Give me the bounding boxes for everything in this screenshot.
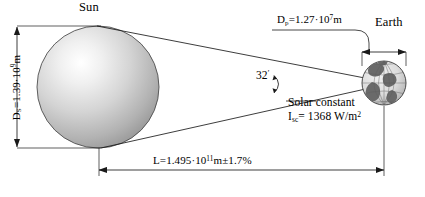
- angle-unit: ′: [268, 69, 270, 78]
- distance-symbol: L: [153, 154, 160, 166]
- earth-diameter-leader-line: [272, 30, 369, 52]
- distance-tolerance: ±1.7%: [222, 154, 251, 166]
- sun-diameter-label: DS=1.39·109m: [11, 37, 24, 137]
- distance-label: L=1.495·1011m±1.7%: [153, 155, 252, 167]
- sun-diameter-subscript: S: [15, 108, 23, 112]
- distance-value: =1.495: [160, 154, 192, 166]
- sun-label: Sun: [79, 1, 99, 14]
- sun-sphere: [37, 26, 159, 148]
- earth-diameter-label: Dp=1.27·107m: [277, 14, 342, 27]
- sun-diameter-exponent: 9: [10, 63, 18, 67]
- solar-constant-exponent: 2: [357, 110, 361, 119]
- distance-exponent: 11: [206, 155, 213, 163]
- sun-diameter-dot: ·: [10, 78, 22, 82]
- angle-arc: [273, 76, 279, 94]
- sun-diameter-base: 10: [10, 67, 22, 78]
- sun-diameter-mantissa: =1.39: [10, 82, 22, 108]
- earth-diameter-mantissa: =1.27: [289, 13, 315, 25]
- angle-value: 32: [256, 69, 268, 81]
- distance-unit: m: [214, 154, 223, 166]
- solar-constant-value: Isc= 1368 W/m2: [288, 110, 361, 123]
- distance-base: 10: [195, 154, 206, 166]
- angle-label: 32′: [256, 69, 269, 81]
- sun-diameter-unit: m: [10, 55, 22, 64]
- diagram-canvas: Sun Earth DS=1.39·109m Dp=1.27·107m 32′ …: [0, 0, 425, 197]
- solar-constant-equals: = 1368 W/m: [298, 110, 357, 122]
- sun-diameter-symbol: D: [10, 112, 22, 120]
- earth-diameter-base: 10: [318, 13, 329, 25]
- earth-diameter-unit: m: [333, 13, 342, 25]
- earth-globe: [362, 59, 406, 106]
- sun-earth-diagram-graphics: [0, 0, 425, 197]
- solar-constant-caption: Solar constant: [288, 96, 361, 108]
- solar-constant-annotation: Solar constant Isc= 1368 W/m2: [288, 96, 361, 123]
- earth-label: Earth: [375, 16, 403, 29]
- earth-diameter-symbol: D: [277, 13, 285, 25]
